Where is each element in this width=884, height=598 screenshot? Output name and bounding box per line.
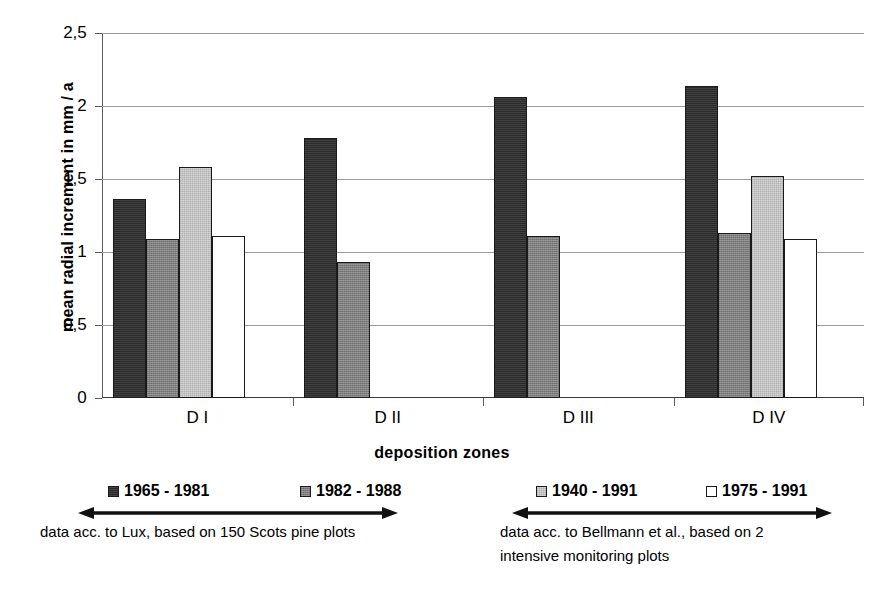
legend-item[interactable]: 1982 - 1988 — [300, 482, 401, 500]
y-tick-mark — [95, 106, 102, 107]
plot-inner: 00,511,522,5 — [102, 33, 864, 398]
plot-area: 00,511,522,5 — [102, 33, 864, 398]
right-source-note-line1: data acc. to Bellmann et al., based on 2 — [500, 522, 764, 542]
x-tick-mark — [674, 398, 675, 406]
x-axis-label: D II — [293, 408, 484, 428]
legend-swatch-icon — [706, 486, 717, 497]
legend-swatch-icon — [300, 486, 311, 497]
x-axis-label: D IV — [674, 408, 865, 428]
bar[interactable] — [337, 262, 370, 398]
bar[interactable] — [113, 199, 146, 398]
y-tick-mark — [95, 252, 102, 253]
legend-item[interactable]: 1975 - 1991 — [706, 482, 807, 500]
left-range-arrow — [78, 506, 398, 520]
bar-group — [674, 33, 865, 398]
y-tick-mark — [95, 33, 102, 34]
bar[interactable] — [527, 236, 560, 398]
y-tick-label: 1,5 — [17, 169, 87, 189]
legend-item[interactable]: 1940 - 1991 — [536, 482, 637, 500]
y-tick-label: 0 — [17, 388, 87, 408]
bar[interactable] — [685, 86, 718, 398]
y-tick-mark — [95, 179, 102, 180]
bar[interactable] — [146, 239, 179, 398]
right-source-note-line2: intensive monitoring plots — [500, 546, 669, 566]
bar-group — [293, 33, 484, 398]
y-tick-mark — [95, 398, 102, 399]
bar[interactable] — [179, 167, 212, 398]
left-source-note: data acc. to Lux, based on 150 Scots pin… — [40, 522, 355, 542]
legend-swatch-icon — [536, 486, 547, 497]
y-tick-label: 2,5 — [17, 23, 87, 43]
x-tick-mark — [483, 398, 484, 406]
legend-swatch-icon — [108, 486, 119, 497]
x-tick-mark — [863, 398, 864, 406]
legend-label: 1965 - 1981 — [124, 482, 209, 500]
x-tick-mark — [293, 398, 294, 406]
y-tick-label: 2 — [17, 96, 87, 116]
bar[interactable] — [212, 236, 245, 398]
bar-group — [483, 33, 674, 398]
bar[interactable] — [784, 239, 817, 398]
legend-label: 1982 - 1988 — [316, 482, 401, 500]
right-range-arrow — [512, 506, 832, 520]
bar[interactable] — [494, 97, 527, 398]
y-tick-label: 1 — [17, 242, 87, 262]
legend-item[interactable]: 1965 - 1981 — [108, 482, 209, 500]
bar[interactable] — [751, 176, 784, 398]
bar[interactable] — [718, 233, 751, 398]
bar-group — [102, 33, 293, 398]
x-axis-label: D III — [483, 408, 674, 428]
x-axis-label: D I — [102, 408, 293, 428]
bar[interactable] — [304, 138, 337, 398]
y-tick-mark — [95, 325, 102, 326]
legend-label: 1940 - 1991 — [552, 482, 637, 500]
legend-label: 1975 - 1991 — [722, 482, 807, 500]
y-tick-label: 0,5 — [17, 315, 87, 335]
x-axis-title: deposition zones — [0, 444, 884, 462]
chart-root: mean radial increment in mm / a 00,511,5… — [0, 0, 884, 598]
